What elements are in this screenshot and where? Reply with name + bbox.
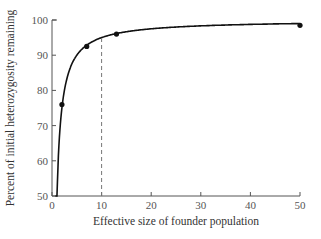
data-curve [55,24,299,197]
x-tick-label: 20 [146,199,158,211]
y-tick-label: 50 [37,190,49,202]
data-point [114,31,119,36]
x-axis-label: Effective size of founder population [93,215,259,228]
x-tick-label: 40 [245,199,257,211]
y-tick-label: 80 [37,84,49,96]
y-tick-label: 70 [37,120,49,132]
data-point [84,44,89,49]
x-tick-label: 50 [295,199,307,211]
data-point [297,23,302,28]
y-axis-label: Percent of initial heterozygosity remain… [4,9,17,206]
x-tick-label: 0 [49,199,55,211]
data-points [59,23,302,107]
data-point [59,102,64,107]
tick-labels: 506070809010001020304050 [32,14,307,211]
heterozygosity-chart: 506070809010001020304050 Effective size … [0,0,321,239]
x-tick-label: 10 [96,199,108,211]
y-tick-label: 90 [37,49,49,61]
x-tick-label: 30 [195,199,207,211]
y-tick-label: 100 [32,14,49,26]
y-tick-label: 60 [37,155,49,167]
